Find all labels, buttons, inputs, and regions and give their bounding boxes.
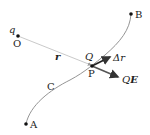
label-force-q: Q [122,74,130,85]
label-force-e: E [129,74,138,85]
label-q-source: q [9,24,15,35]
label-a: A [29,119,38,130]
label-force: QE [122,74,138,85]
point-a [24,122,28,126]
label-delta-r: Δr [112,52,126,63]
diagram-canvas: q O B A Q P r C Δr QE [0,0,150,135]
point-b [129,12,133,16]
label-r: r [55,51,61,62]
curve-c [26,14,131,124]
force-arrow [92,66,118,77]
label-q-test: Q [85,51,93,62]
label-o: O [13,38,21,49]
label-c: C [47,81,55,92]
label-p: P [88,68,95,79]
label-b: B [135,9,142,20]
